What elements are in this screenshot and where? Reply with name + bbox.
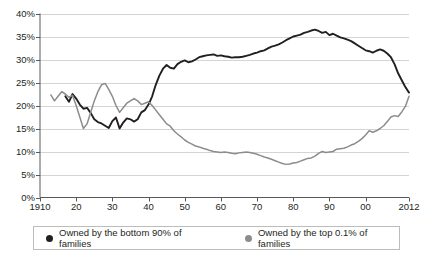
legend-item-top01: Owned by the top 0.1% of families [245, 227, 399, 249]
y-axis-tick-label: 20% [3, 101, 35, 111]
x-axis-tick-label: 1910 [20, 202, 60, 212]
x-axis-tick-label: 80 [273, 202, 313, 212]
chart-figure: 0%5%10%15%20%25%30%35%40% 19102030405060… [0, 0, 425, 259]
legend-label-bottom90: Owned by the bottom 90% of families [59, 227, 213, 249]
legend-marker-dot-bottom90 [46, 235, 53, 242]
x-axis-tick-label: 60 [201, 202, 241, 212]
x-axis-tick-label: 50 [165, 202, 205, 212]
legend-marker-dot-top01 [245, 235, 252, 242]
x-axis-tick-label: 90 [309, 202, 349, 212]
x-axis-tick-label: 00 [346, 202, 386, 212]
y-axis-tick-label: 30% [3, 55, 35, 65]
y-axis-tick-label: 5% [3, 170, 35, 180]
data-series [51, 30, 409, 165]
chart-plot-svg [0, 0, 425, 259]
y-axis-tick-label: 15% [3, 124, 35, 134]
legend-label-top01: Owned by the top 0.1% of families [258, 227, 399, 249]
x-axis-tick-label: 20 [56, 202, 96, 212]
x-axis-tick-label: 30 [92, 202, 132, 212]
y-axis-tick-label: 10% [3, 147, 35, 157]
x-axis-tick-label: 40 [129, 202, 169, 212]
chart-legend: Owned by the bottom 90% of families Owne… [33, 226, 400, 250]
y-axis-tick-label: 40% [3, 9, 35, 19]
series-line-bottom90 [65, 30, 409, 129]
x-axis-tick-label: 2012 [389, 202, 425, 212]
y-axis-tick-label: 35% [3, 32, 35, 42]
x-axis-tick-label: 70 [237, 202, 277, 212]
y-axis-ticks [36, 15, 40, 199]
y-axis-tick-label: 25% [3, 78, 35, 88]
legend-item-bottom90: Owned by the bottom 90% of families [46, 227, 213, 249]
